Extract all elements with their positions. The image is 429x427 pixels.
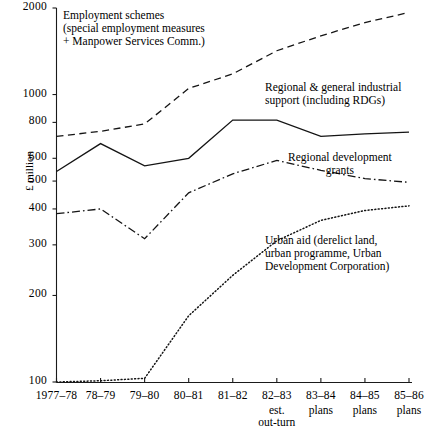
x-axis-ticks bbox=[57, 378, 410, 382]
annotation-line: Regional development bbox=[288, 151, 392, 164]
annotation-employment-schemes: Employment schemes(special employment me… bbox=[63, 9, 205, 49]
x-tick-label: 85–86 bbox=[379, 389, 429, 401]
y-tick-label: 200 bbox=[5, 287, 47, 299]
x-tick-sublabel-line: plans bbox=[379, 404, 429, 416]
annotation-line: + Manpower Services Comm.) bbox=[63, 35, 205, 48]
y-tick-label: 100 bbox=[5, 374, 47, 386]
x-tick-sublabel: plans bbox=[379, 404, 429, 416]
y-tick-label: 1000 bbox=[5, 87, 47, 99]
annotation-line: support (including RDGs) bbox=[265, 94, 401, 107]
annotation-urban-aid: Urban aid (derelict land,urban programme… bbox=[265, 234, 389, 274]
annotation-regional-general-industrial-support: Regional & general industrialsupport (in… bbox=[265, 81, 401, 107]
y-tick-label: 800 bbox=[5, 114, 47, 126]
annotation-line: Urban aid (derelict land, bbox=[265, 234, 389, 247]
y-tick-label: 400 bbox=[5, 201, 47, 213]
annotation-line: Development Corporation) bbox=[265, 260, 389, 273]
series-lines bbox=[57, 12, 410, 382]
annotation-line: urban programme, Urban bbox=[265, 247, 389, 260]
y-tick-label: 300 bbox=[5, 237, 47, 249]
series-line-3 bbox=[57, 206, 410, 382]
annotation-line: (special employment measures bbox=[63, 22, 205, 35]
annotation-regional-development-grants: Regional developmentgrants bbox=[288, 151, 392, 177]
annotation-line: Regional & general industrial bbox=[265, 81, 401, 94]
x-tick-sublabel-line: out-turn bbox=[247, 416, 307, 427]
y-tick-label: 2000 bbox=[5, 0, 47, 12]
axes bbox=[53, 8, 413, 383]
y-tick-label: 500 bbox=[5, 173, 47, 185]
annotation-line: Employment schemes bbox=[63, 9, 205, 22]
annotation-line: grants bbox=[288, 164, 392, 177]
y-axis-ticks bbox=[53, 8, 57, 382]
y-tick-label: 600 bbox=[5, 150, 47, 162]
